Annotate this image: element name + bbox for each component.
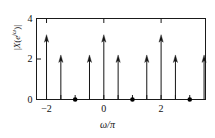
zero-sample-marker: [130, 97, 135, 102]
zero-sample-marker: [187, 97, 192, 102]
chart-canvas: −202024: [0, 0, 215, 138]
x-tick-label: 0: [101, 103, 106, 114]
x-axis-label: ω/π: [0, 119, 215, 130]
zero-sample-marker: [73, 97, 78, 102]
y-tick-label: 2: [28, 53, 33, 64]
y-axis-label: |X(ejω)|: [11, 6, 22, 70]
y-tick-label: 0: [28, 94, 33, 105]
x-tick-label: 2: [159, 103, 164, 114]
y-tick-label: 4: [28, 13, 33, 24]
x-tick-label: −2: [41, 103, 52, 114]
figure-container: −202024 |X(ejω)| ω/π: [0, 0, 215, 138]
